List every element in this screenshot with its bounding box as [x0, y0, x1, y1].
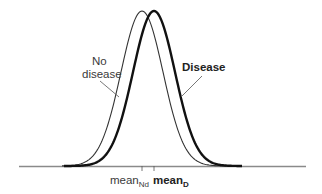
disease-leader: [181, 76, 202, 97]
mean-nd-subscript: Nd: [139, 180, 149, 189]
disease-curve: [64, 11, 242, 166]
mean-d-subscript: D: [183, 180, 189, 189]
mean-d-text: mean: [153, 174, 183, 186]
no-disease-leader: [100, 81, 119, 97]
no-disease-curve: [62, 11, 229, 166]
mean-nd-label: meanNd: [110, 174, 149, 191]
no-disease-label-line2: disease: [82, 68, 122, 81]
no-disease-label-line1: No: [92, 55, 107, 68]
mean-d-label: meanD: [153, 174, 189, 191]
distribution-diagram: [0, 0, 322, 194]
disease-label: Disease: [182, 61, 225, 74]
mean-nd-text: mean: [110, 174, 139, 186]
